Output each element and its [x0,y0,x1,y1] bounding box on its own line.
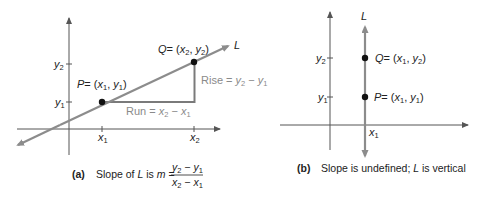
panel-b-caption: (b) Slope is undefined; L is vertical [297,162,466,174]
point-p [99,99,105,105]
panel-a: L Q= (x2, y2) P= (x1, y1) Rise = y2 − y1… [17,18,267,190]
panel-a-y1-label: y1 [54,96,65,110]
panel-a-caption: (a) Slope of L is m = y2 − y1 x2 − x1 [72,161,203,190]
slope-diagram: L Q= (x2, y2) P= (x1, y1) Rise = y2 − y1… [0,0,481,197]
panel-b-q-label: Q= (x1, y2) [375,52,426,66]
panel-b-p-label: P= (x1, y1) [374,91,424,105]
panel-a-line-label: L [234,39,240,51]
point-q [191,59,197,65]
panel-b-y2-label: y2 [315,52,326,66]
svg-text:Slope is undefined; L is verti: Slope is undefined; L is vertical [321,162,466,174]
panel-b: L Q= (x1, y2) P= (x1, y1) y2 y1 x1 (b) S… [280,10,468,174]
panel-a-p-label: P= (x1, y1) [77,78,127,92]
panel-b-y1-label: y1 [317,91,328,105]
point-p-vertical [362,94,368,100]
point-q-vertical [362,55,368,61]
svg-text:Slope of L is m =: Slope of L is m = [96,168,175,180]
svg-text:(b): (b) [297,162,310,174]
rise-label: Rise = y2 − y1 [201,74,267,88]
slope-fraction-numerator: y2 − y1 [171,161,203,175]
line-l-lower [18,125,60,145]
panel-a-y2-label: y2 [53,58,64,72]
panel-b-x1-label: x1 [368,126,379,140]
run-label: Run = x2 − x1 [126,105,191,119]
panel-a-x1-label: x1 [97,131,108,145]
slope-fraction-denominator: x2 − x1 [171,176,203,190]
panel-a-x2-label: x2 [189,131,200,145]
panel-a-q-label: Q= (x2, y2) [158,43,209,57]
panel-b-line-label: L [361,10,367,22]
svg-text:(a): (a) [72,168,85,180]
